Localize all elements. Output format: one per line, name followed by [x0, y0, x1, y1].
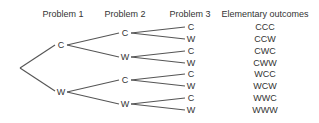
outcome-label: WCC: [254, 69, 276, 79]
node-problem1-c: C: [58, 40, 65, 50]
header-elementary-outcomes: Elementary outcomes: [221, 9, 308, 19]
outcome-label: CCC: [255, 22, 275, 32]
outcome-label: CWW: [253, 58, 277, 68]
outcome-label: CCW: [254, 34, 276, 44]
node-problem1-w: W: [57, 87, 66, 97]
node-problem3-w: W: [187, 34, 196, 44]
node-problem3-w: W: [187, 81, 196, 91]
node-problem3-c: C: [188, 93, 195, 103]
node-problem2-w: W: [121, 52, 130, 62]
node-problem3-c: C: [188, 46, 195, 56]
outcome-label: WCW: [253, 81, 277, 91]
node-problem3-c: C: [188, 69, 195, 79]
node-problem2-w: W: [121, 99, 130, 109]
outcome-label: WWC: [253, 93, 277, 103]
node-problem2-c: C: [122, 28, 129, 38]
header-problem-3: Problem 3: [169, 9, 210, 19]
outcome-label: WWW: [252, 105, 277, 115]
tree-diagram: Problem 1 Problem 2 Problem 3 Elementary…: [0, 0, 319, 123]
header-problem-1: Problem 1: [42, 9, 83, 19]
node-problem3-w: W: [187, 105, 196, 115]
node-problem3-c: C: [188, 22, 195, 32]
outcome-label: CWC: [254, 46, 276, 56]
node-problem2-c: C: [122, 75, 129, 85]
header-problem-2: Problem 2: [104, 9, 145, 19]
node-problem3-w: W: [187, 58, 196, 68]
